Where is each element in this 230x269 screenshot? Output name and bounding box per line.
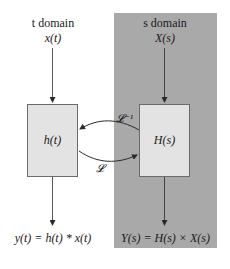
arrows-layer (0, 0, 230, 269)
laplace-arrow-icon (79, 151, 137, 161)
inverse-laplace-label: 𝓛⁻¹ (116, 112, 133, 125)
t-domain-output-equation: y(t) = h(t) * x(t) (4, 231, 102, 246)
laplace-label: 𝓛 (96, 162, 104, 175)
s-domain-output-equation: Y(s) = H(s) × X(s) (114, 231, 217, 246)
